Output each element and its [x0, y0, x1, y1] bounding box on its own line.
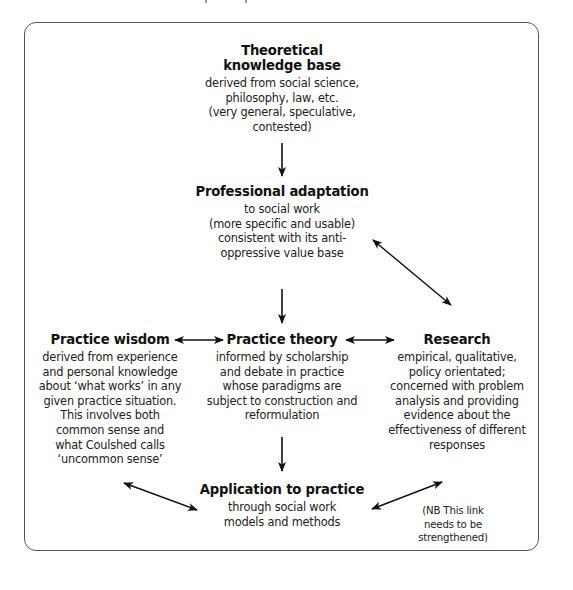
node-title: Research — [382, 332, 532, 347]
node-description: informed by scholarship and debate in pr… — [200, 350, 364, 423]
node-title: Theoretical knowledge base — [182, 43, 382, 73]
cropped-text-fragment — [165, 0, 245, 4]
node-description: derived from experience and personal kno… — [30, 350, 190, 467]
node-professional-adaptation: Professional adaptation to social work (… — [172, 184, 392, 260]
title-line: Theoretical — [182, 43, 382, 58]
node-title: Professional adaptation — [172, 184, 392, 199]
link-note: (NB This link needs to be strengthened) — [408, 504, 498, 545]
node-description: derived from social science, philosophy,… — [182, 76, 382, 134]
node-title: Practice wisdom — [30, 332, 190, 347]
node-title: Practice theory — [200, 332, 364, 347]
node-research: Research empirical, qualitative, policy … — [382, 332, 532, 452]
node-theoretical-knowledge-base: Theoretical knowledge base derived from … — [182, 43, 382, 134]
node-practice-wisdom: Practice wisdom derived from experience … — [30, 332, 190, 467]
node-application-to-practice: Application to practice through social w… — [192, 482, 372, 529]
node-practice-theory: Practice theory informed by scholarship … — [200, 332, 364, 423]
node-description: to social work (more specific and usable… — [172, 202, 392, 260]
node-description: empirical, qualitative, policy orientate… — [382, 350, 532, 452]
title-line: knowledge base — [182, 58, 382, 73]
node-description: through social work models and methods — [192, 500, 372, 529]
node-title: Application to practice — [192, 482, 372, 497]
